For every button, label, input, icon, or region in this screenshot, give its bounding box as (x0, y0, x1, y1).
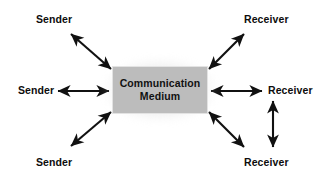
communication-medium-label: Communication Medium (120, 77, 201, 103)
receiver-bottom-right-label: Receiver (244, 157, 289, 168)
receiver-top-right-label: Receiver (244, 14, 289, 25)
receiver-middle-right-label: Receiver (268, 85, 313, 96)
communication-medium-diagram: Communication Medium Sender Sender Sende… (0, 0, 326, 181)
sender-bottom-left-label: Sender (36, 157, 72, 168)
communication-medium-node: Communication Medium (112, 66, 208, 114)
sender-middle-left-label: Sender (18, 85, 54, 96)
sender-top-left-label: Sender (36, 14, 72, 25)
